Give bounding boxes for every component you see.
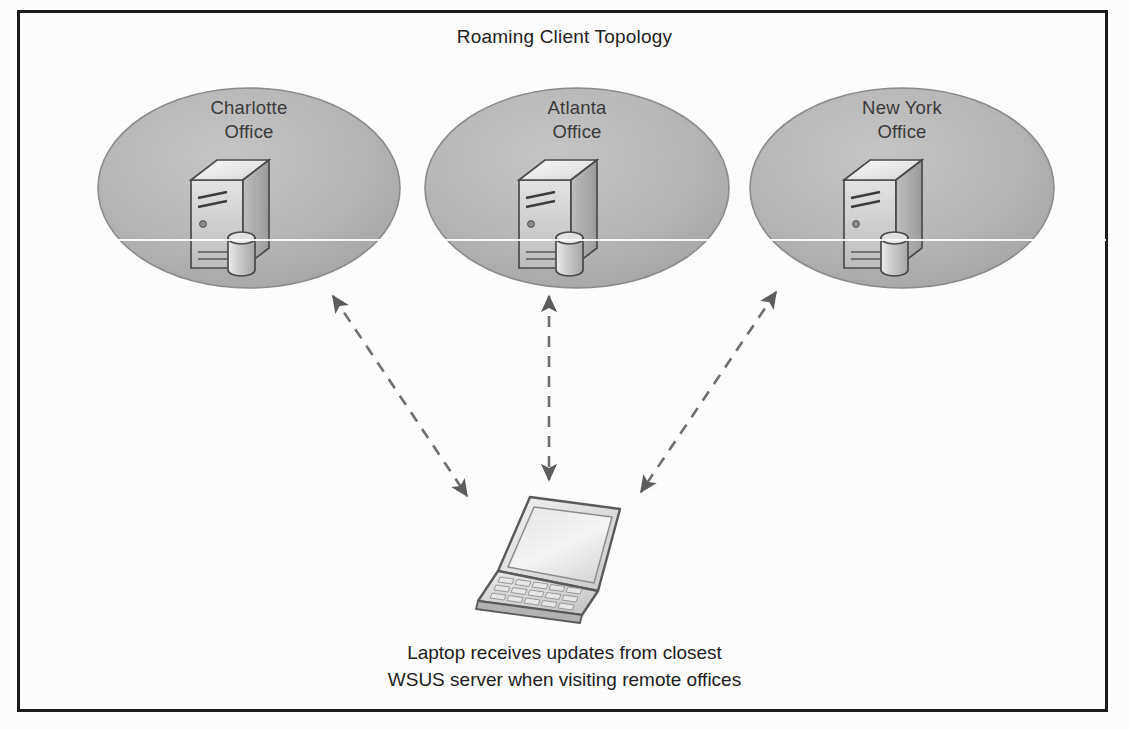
site-label-charlotte: Charlotte Office — [169, 96, 329, 143]
site-label-line1: New York — [822, 96, 982, 120]
caption-line-2: WSUS server when visiting remote offices — [0, 667, 1129, 694]
site-label-line1: Atlanta — [497, 96, 657, 120]
connection-newyork-to-laptop — [641, 292, 776, 492]
site-label-line2: Office — [497, 120, 657, 144]
site-label-atlanta: Atlanta Office — [497, 96, 657, 143]
scan-artifact-line — [20, 239, 1106, 241]
diagram-caption: Laptop receives updates from closest WSU… — [0, 640, 1129, 694]
laptop-icon — [476, 497, 620, 623]
site-label-line1: Charlotte — [169, 96, 329, 120]
diagram-canvas: Roaming Client Topology — [0, 0, 1129, 729]
site-label-line2: Office — [169, 120, 329, 144]
site-label-line2: Office — [822, 120, 982, 144]
caption-line-1: Laptop receives updates from closest — [0, 640, 1129, 667]
site-label-newyork: New York Office — [822, 96, 982, 143]
connection-charlotte-to-laptop — [333, 296, 467, 496]
